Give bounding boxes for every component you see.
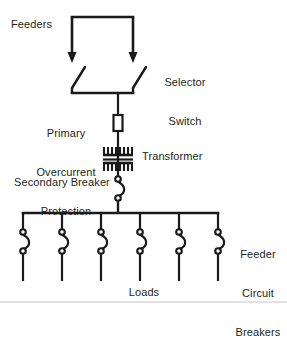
feeder-breaker-4[interactable] (137, 213, 146, 281)
label-feeder-cb-line2: Circuit (232, 287, 284, 300)
secondary-breaker-contact-arc[interactable] (119, 182, 125, 196)
feeder-breaker-3-terminal-bottom (98, 248, 104, 254)
label-transformer: Transformer (142, 150, 203, 163)
feeder-breaker-6-contact-arc[interactable] (219, 235, 225, 249)
feeder-breaker-6-terminal-top (215, 229, 221, 235)
label-feeders: Feeders (11, 18, 52, 31)
label-feeder-cb-line1: Feeder (232, 248, 284, 261)
feeder-breaker-4-terminal-top (137, 229, 143, 235)
selector-switch-contact-right-arrow (129, 52, 138, 63)
label-selector-switch-line2: Switch (152, 115, 218, 128)
secondary-breaker[interactable] (115, 176, 124, 201)
feeder-breaker-4-contact-arc[interactable] (141, 235, 147, 249)
selector-switch-blade-right[interactable] (133, 67, 146, 88)
feeder-breaker-6-terminal-bottom (215, 248, 221, 254)
secondary-breaker-terminal-bottom (115, 195, 121, 201)
label-primary-line1: Primary (24, 127, 108, 140)
selector-switch-blade-left[interactable] (72, 67, 85, 88)
feeder-breaker-6[interactable] (215, 213, 224, 281)
label-primary-overcurrent-protection: Primary Overcurrent Protection (24, 101, 108, 244)
feeder-breaker-5-contact-arc[interactable] (180, 235, 186, 249)
feeder-breaker-5-terminal-bottom (176, 248, 182, 254)
label-loads: Loads (104, 286, 184, 299)
label-feeder-cb-line3: Breakers (232, 326, 284, 339)
label-selector-switch-line1: Selector (152, 76, 218, 89)
primary-overcurrent-fuse[interactable] (114, 115, 123, 131)
feeder-breaker-4-terminal-bottom (137, 248, 143, 254)
feeder-breaker-5[interactable] (176, 213, 185, 281)
label-feeder-circuit-breakers: Feeder Circuit Breakers (232, 222, 284, 340)
label-primary-line3: Protection (24, 205, 108, 218)
feeder-breaker-1-terminal-bottom (20, 248, 26, 254)
fuse-body (114, 115, 123, 131)
selector-switch[interactable] (68, 17, 147, 93)
secondary-breaker-terminal-top (115, 176, 121, 182)
feeder-breaker-2-terminal-bottom (59, 248, 65, 254)
selector-switch-contact-left-arrow (68, 52, 77, 63)
label-secondary-breaker: Secondary Breaker (14, 176, 110, 189)
feeder-breaker-5-terminal-top (176, 229, 182, 235)
label-selector-switch: Selector Switch (152, 50, 218, 154)
